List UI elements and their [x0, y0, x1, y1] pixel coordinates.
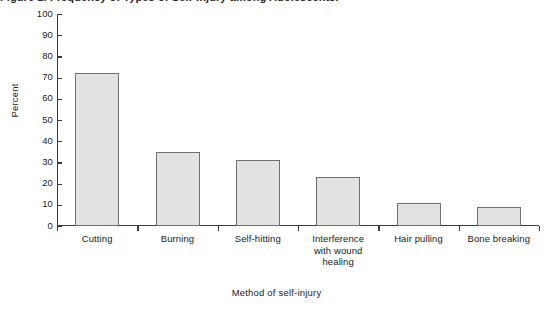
category-label: Cutting	[57, 233, 137, 245]
y-tick-mark	[57, 56, 62, 57]
y-tick-mark	[57, 141, 62, 142]
bar	[75, 73, 119, 226]
y-tick-mark	[57, 120, 62, 121]
plot-area: 0102030405060708090100	[57, 14, 539, 226]
y-tick-label: 100	[37, 8, 53, 19]
bar	[316, 177, 360, 226]
category-label-line: healing	[298, 256, 378, 268]
category-label: Burning	[137, 233, 217, 245]
bar	[397, 203, 441, 226]
x-tick-mark	[57, 226, 58, 231]
category-label: Interferencewith woundhealing	[298, 233, 378, 268]
y-axis-title: Percent	[9, 71, 20, 131]
category-label-line: Self-hitting	[218, 233, 298, 245]
category-label: Hair pulling	[378, 233, 458, 245]
y-tick-label: 40	[42, 135, 53, 146]
bar-chart-figure: Figure 1. Frequency of Types of Self-Inj…	[0, 0, 553, 309]
category-label-line: Bone breaking	[459, 233, 539, 245]
category-label: Self-hitting	[218, 233, 298, 245]
y-tick-label: 50	[42, 114, 53, 125]
x-tick-mark	[539, 226, 540, 231]
y-tick-label: 80	[42, 50, 53, 61]
category-label-line: with wound	[298, 245, 378, 257]
x-tick-mark	[218, 226, 219, 231]
y-tick-label: 70	[42, 71, 53, 82]
x-axis-title: Method of self-injury	[0, 287, 553, 298]
bar	[156, 152, 200, 226]
x-tick-mark	[137, 226, 138, 231]
bar	[236, 160, 280, 226]
category-label-line: Cutting	[57, 233, 137, 245]
y-tick-mark	[57, 35, 62, 36]
y-tick-mark	[57, 205, 62, 206]
y-tick-mark	[57, 14, 62, 15]
y-tick-mark	[57, 99, 62, 100]
y-tick-label: 30	[42, 156, 53, 167]
x-tick-mark	[378, 226, 379, 231]
y-tick-mark	[57, 78, 62, 79]
category-label-line: Burning	[137, 233, 217, 245]
y-tick-label: 20	[42, 177, 53, 188]
y-tick-mark	[57, 184, 62, 185]
category-label-line: Hair pulling	[378, 233, 458, 245]
y-tick-mark	[57, 162, 62, 163]
y-tick-label: 90	[42, 29, 53, 40]
category-label-line: Interference	[298, 233, 378, 245]
x-tick-mark	[459, 226, 460, 231]
x-tick-mark	[298, 226, 299, 231]
y-tick-label: 10	[42, 198, 53, 209]
figure-caption: Figure 1. Frequency of Types of Self-Inj…	[0, 0, 553, 3]
y-tick-label: 60	[42, 92, 53, 103]
bar	[477, 207, 521, 226]
category-label: Bone breaking	[459, 233, 539, 245]
y-tick-label: 0	[48, 220, 53, 231]
